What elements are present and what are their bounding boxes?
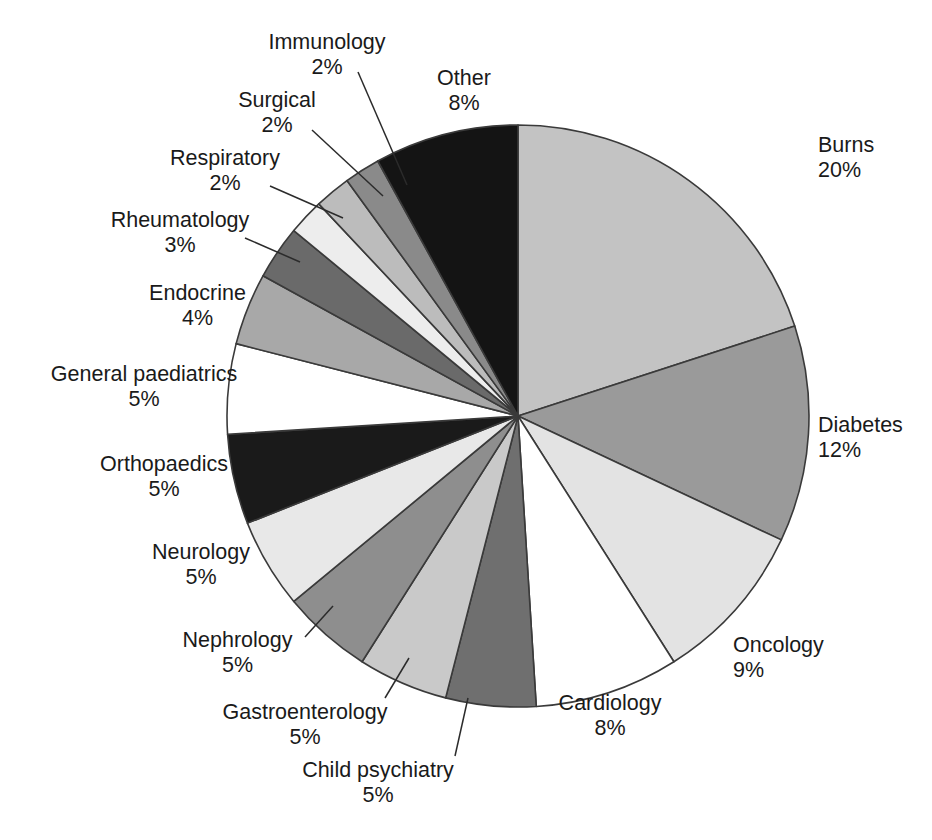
slice-label-orthopaedics: Orthopaedics 5% — [88, 452, 240, 502]
slice-label-diabetes-pct: 12% — [818, 438, 903, 463]
slice-label-surgical: Surgical 2% — [218, 88, 336, 138]
slice-label-surgical-name: Surgical — [218, 88, 336, 113]
slice-label-rheumatology-name: Rheumatology — [96, 208, 264, 233]
slice-label-nephrology-name: Nephrology — [170, 628, 305, 653]
slice-label-cardiology-name: Cardiology — [545, 691, 675, 716]
slice-label-respiratory-name: Respiratory — [155, 146, 295, 171]
pie-slice-group — [227, 125, 809, 707]
leader-line-childpsych — [455, 698, 468, 756]
slice-label-immunology-pct: 2% — [251, 55, 403, 80]
slice-label-respiratory-pct: 2% — [155, 171, 295, 196]
slice-label-surgical-pct: 2% — [218, 113, 336, 138]
slice-label-child-psychiatry-name: Child psychiatry — [281, 758, 475, 783]
slice-label-neurology-pct: 5% — [139, 565, 263, 590]
slice-label-immunology-name: Immunology — [251, 30, 403, 55]
slice-label-general-paediatrics: General paediatrics 5% — [33, 362, 255, 412]
slice-label-general-paediatrics-pct: 5% — [33, 387, 255, 412]
slice-label-orthopaedics-pct: 5% — [88, 477, 240, 502]
slice-label-oncology-pct: 9% — [733, 658, 824, 683]
slice-label-endocrine: Endocrine 4% — [130, 281, 265, 331]
slice-label-cardiology: Cardiology 8% — [545, 691, 675, 741]
slice-label-gastroenterology-name: Gastroenterology — [205, 700, 405, 725]
slice-label-respiratory: Respiratory 2% — [155, 146, 295, 196]
slice-label-burns-pct: 20% — [818, 158, 874, 183]
slice-label-other: Other 8% — [416, 66, 512, 116]
pie-chart-figure: Burns 20% Diabetes 12% Oncology 9% Cardi… — [0, 0, 932, 840]
slice-label-other-pct: 8% — [416, 91, 512, 116]
slice-label-orthopaedics-name: Orthopaedics — [88, 452, 240, 477]
slice-label-endocrine-pct: 4% — [130, 306, 265, 331]
slice-label-cardiology-pct: 8% — [545, 716, 675, 741]
slice-label-burns-name: Burns — [818, 133, 874, 158]
slice-label-other-name: Other — [416, 66, 512, 91]
slice-label-child-psychiatry-pct: 5% — [281, 783, 475, 808]
slice-label-gastroenterology: Gastroenterology 5% — [205, 700, 405, 750]
slice-label-oncology-name: Oncology — [733, 633, 824, 658]
slice-label-neurology: Neurology 5% — [139, 540, 263, 590]
slice-label-diabetes: Diabetes 12% — [818, 413, 903, 463]
slice-label-immunology: Immunology 2% — [251, 30, 403, 80]
slice-label-general-paediatrics-name: General paediatrics — [33, 362, 255, 387]
slice-label-endocrine-name: Endocrine — [130, 281, 265, 306]
slice-label-gastroenterology-pct: 5% — [205, 725, 405, 750]
slice-label-burns: Burns 20% — [818, 133, 874, 183]
slice-label-nephrology-pct: 5% — [170, 653, 305, 678]
slice-label-rheumatology-pct: 3% — [96, 233, 264, 258]
slice-label-rheumatology: Rheumatology 3% — [96, 208, 264, 258]
slice-label-oncology: Oncology 9% — [733, 633, 824, 683]
slice-label-child-psychiatry: Child psychiatry 5% — [281, 758, 475, 808]
pie-chart-canvas — [0, 0, 932, 840]
slice-label-neurology-name: Neurology — [139, 540, 263, 565]
slice-label-nephrology: Nephrology 5% — [170, 628, 305, 678]
slice-label-diabetes-name: Diabetes — [818, 413, 903, 438]
